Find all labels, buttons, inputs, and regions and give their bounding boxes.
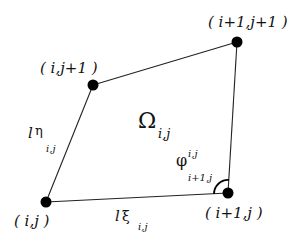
diagram-canvas: ( i,j ) ( i+1,j ) ( i+1,j+1 ) ( i,j+1 ) … (0, 0, 304, 245)
edge-label-left-symbol: η (35, 123, 43, 138)
angle-label-sup: i,j (188, 148, 197, 159)
node-i1-j1 (232, 37, 243, 48)
node-label-i1-j: ( i+1,j ) (205, 204, 263, 222)
edge-bottom (46, 193, 228, 202)
angle-label-sub: i+1,j (188, 172, 212, 183)
edge-label-bottom-main: l (115, 207, 120, 225)
edge-label-bottom-sub: i,j (138, 221, 147, 232)
edge-label-bottom-symbol: ξ (122, 208, 130, 224)
node-label-i1-j1: ( i+1,j+1 ) (208, 13, 288, 31)
node-i-j (41, 197, 52, 208)
edge-right (228, 42, 237, 193)
edge-label-left-sub: i,j (46, 143, 55, 154)
node-label-i-j: ( i,j ) (14, 212, 50, 230)
cell-label-sub: i,j (158, 126, 170, 141)
cell-label-symbol: Ω (138, 108, 156, 133)
edge-label-left-main: l (28, 124, 33, 142)
node-label-i-j1: ( i,j+1 ) (40, 59, 98, 77)
edge-top (93, 42, 237, 85)
angle-label-symbol: φ (176, 151, 187, 170)
node-i-j1 (88, 80, 99, 91)
node-i1-j (223, 188, 234, 199)
grid-cell-diagram: ( i,j ) ( i+1,j ) ( i+1,j+1 ) ( i,j+1 ) … (0, 0, 304, 245)
